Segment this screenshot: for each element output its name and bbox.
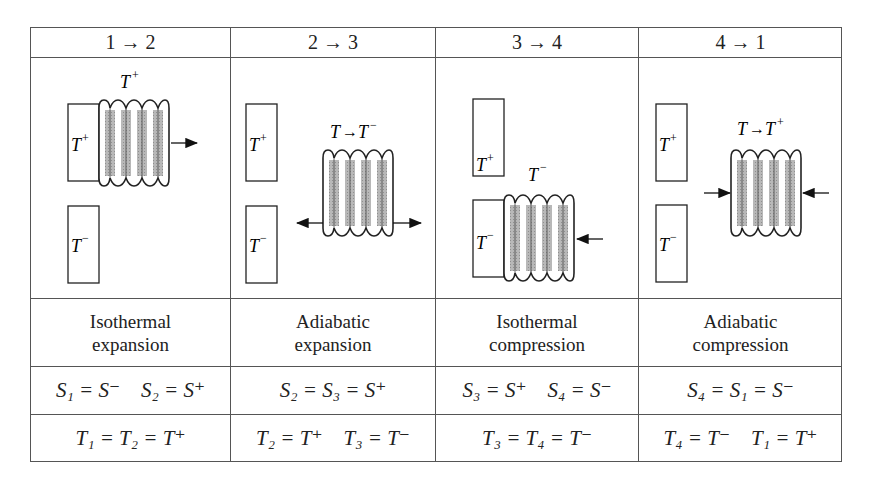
desc-line: Adiabatic xyxy=(692,310,788,333)
header-row: 1 → 2 2 → 3 3 → 4 4 → 1 xyxy=(31,28,841,58)
entropy-row: S₁ = S⁻ S₂ = S⁺ S₂ = S₃ = S⁺ S₃ = S⁺ S₄ … xyxy=(31,367,841,415)
temperature-row: T₁ = T₂ = T⁺ T₂ = T⁺ T₃ = T⁻ T₃ = T₄ = T… xyxy=(31,415,841,462)
entropy-cell-2: S₂ = S₃ = S⁺ xyxy=(231,367,436,414)
entropy-cell-1: S₁ = S⁻ S₂ = S⁺ xyxy=(31,367,231,414)
desc-line: compression xyxy=(692,333,788,356)
desc-cell-2: Adiabaticexpansion xyxy=(231,299,436,366)
desc-line: Isothermal xyxy=(90,310,171,333)
description-row: Isothermalexpansion Adiabaticexpansion I… xyxy=(31,299,841,367)
temperature-cell-2: T₂ = T⁺ T₃ = T⁻ xyxy=(231,415,436,462)
diagram-row: T + T + T − T + T − T xyxy=(31,58,841,299)
desc-line: expansion xyxy=(294,333,371,356)
diagram-cell-4 xyxy=(639,58,842,298)
header-2-3: 2 → 3 xyxy=(231,28,436,57)
desc-line: compression xyxy=(489,333,585,356)
desc-cell-4: Adiabaticcompression xyxy=(639,299,842,366)
desc-cell-1: Isothermalexpansion xyxy=(31,299,231,366)
temperature-cell-1: T₁ = T₂ = T⁺ xyxy=(31,415,231,462)
header-1-2: 1 → 2 xyxy=(31,28,231,57)
diagram-cell-3 xyxy=(436,58,639,298)
diagram-cell-2 xyxy=(231,58,436,298)
entropy-cell-3: S₃ = S⁺ S₄ = S⁻ xyxy=(436,367,639,414)
header-4-1: 4 → 1 xyxy=(639,28,842,57)
carnot-cycle-table: 1 → 2 2 → 3 3 → 4 4 → 1 xyxy=(30,27,842,462)
desc-line: Adiabatic xyxy=(294,310,371,333)
desc-line: Isothermal xyxy=(489,310,585,333)
entropy-cell-4: S₄ = S₁ = S⁻ xyxy=(639,367,842,414)
desc-line: expansion xyxy=(90,333,171,356)
header-3-4: 3 → 4 xyxy=(436,28,639,57)
desc-cell-3: Isothermalcompression xyxy=(436,299,639,366)
diagram-cell-1 xyxy=(31,58,231,298)
temperature-cell-4: T₄ = T⁻ T₁ = T⁺ xyxy=(639,415,842,462)
temperature-cell-3: T₃ = T₄ = T⁻ xyxy=(436,415,639,462)
